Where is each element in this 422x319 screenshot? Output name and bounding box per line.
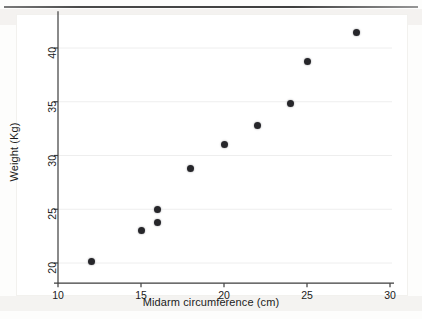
y-axis-title: Weight (Kg) xyxy=(8,102,20,202)
data-point xyxy=(154,219,161,226)
y-tick-label: 20 xyxy=(46,262,58,280)
data-point xyxy=(221,141,228,148)
x-tick-label: 15 xyxy=(135,289,147,301)
data-point xyxy=(254,122,261,129)
y-tick-label: 40 xyxy=(46,47,58,65)
x-tick-label: 20 xyxy=(218,289,230,301)
scatter-plot xyxy=(0,0,422,319)
y-tick-label: 25 xyxy=(46,208,58,226)
x-tick-label: 30 xyxy=(384,289,396,301)
data-point xyxy=(154,206,161,213)
y-tick-label: 30 xyxy=(46,155,58,173)
data-point xyxy=(138,227,145,234)
y-tick-label: 35 xyxy=(46,101,58,119)
x-tick-label: 10 xyxy=(52,289,64,301)
plot-svg xyxy=(0,0,422,319)
x-tick-label: 25 xyxy=(301,289,313,301)
